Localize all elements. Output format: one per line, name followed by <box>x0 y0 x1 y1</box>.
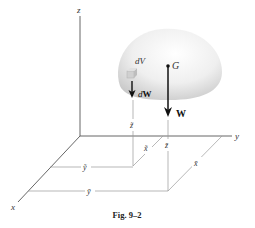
figure-caption: Fig. 9–2 <box>113 210 142 220</box>
centroid-x-label: x̄ <box>193 159 198 168</box>
x-axis-label: x <box>10 202 15 212</box>
body-shape <box>118 29 222 100</box>
z-axis-label: z <box>76 5 81 15</box>
centroid-dimension-lines <box>28 120 222 191</box>
figure-9-2: z y x G dV dW W z̃ ỹ x̃ z̄ ȳ x̄ Fig. 9–2 <box>0 0 255 228</box>
y-axis-label: y <box>234 131 239 141</box>
element-y-label: ỹ <box>82 163 87 172</box>
centroid-label: G <box>172 60 179 71</box>
element-dimension-lines <box>50 100 163 167</box>
volume-element <box>127 68 137 78</box>
x-axis <box>18 136 80 202</box>
total-weight-label: W <box>176 108 186 119</box>
centroid-y-label: ȳ <box>86 187 91 196</box>
element-label: dV <box>135 56 147 66</box>
element-weight-label: dW <box>138 89 152 99</box>
